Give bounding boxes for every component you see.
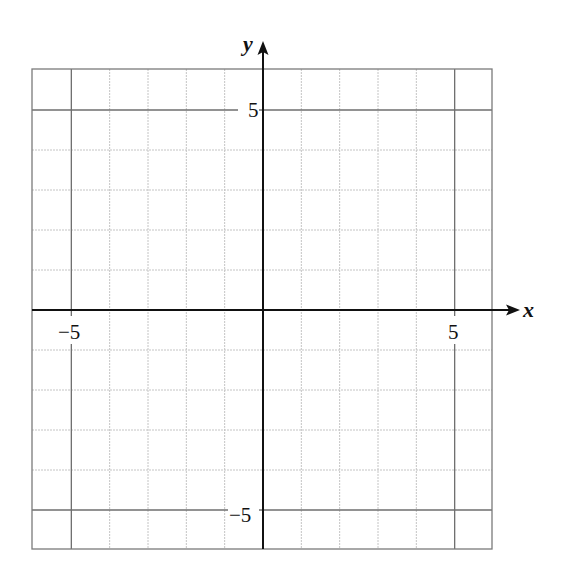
x-tick-label-5: 5	[448, 320, 459, 344]
y-tick-label-5: 5	[248, 98, 259, 122]
background	[0, 0, 570, 572]
coordinate-plane: x y 5 −5 −5 5	[0, 0, 570, 572]
x-axis-label: x	[522, 297, 534, 322]
x-tick-label-neg5: −5	[58, 320, 80, 344]
y-tick-label-neg5: −5	[229, 503, 251, 527]
